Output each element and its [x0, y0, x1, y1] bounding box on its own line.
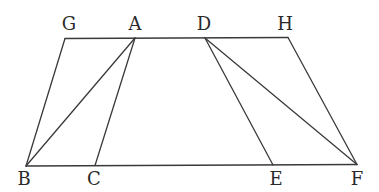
segments-group [26, 38, 357, 167]
point-label-E: E [269, 168, 282, 189]
segment-AB [26, 38, 135, 166]
segment-GB [26, 39, 65, 167]
segment-HF [288, 38, 357, 165]
point-label-B: B [17, 168, 30, 189]
labels-group: G A D H B C E F [17, 13, 363, 189]
point-label-F: F [351, 168, 364, 189]
segment-BF [26, 165, 357, 167]
point-label-G: G [62, 13, 76, 34]
segment-DF [205, 38, 357, 165]
geometry-diagram: G A D H B C E F [0, 0, 379, 192]
point-label-A: A [128, 13, 143, 34]
segment-AC [95, 38, 135, 166]
point-label-H: H [277, 13, 293, 34]
segment-DE [205, 38, 273, 165]
point-label-C: C [87, 168, 101, 189]
point-label-D: D [197, 13, 211, 34]
segment-GH [65, 38, 288, 39]
